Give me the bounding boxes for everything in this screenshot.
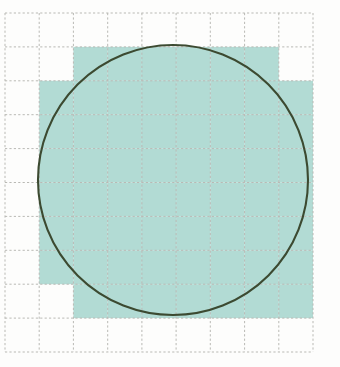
shaded-cell	[39, 81, 73, 115]
shaded-cell	[39, 250, 73, 284]
shaded-cell	[210, 115, 244, 149]
shaded-cell	[210, 250, 244, 284]
shaded-cell	[245, 81, 279, 115]
shaded-cell	[73, 149, 107, 183]
shaded-cell	[73, 284, 107, 318]
shaded-cell	[176, 81, 210, 115]
shaded-cell	[73, 183, 107, 217]
shaded-cell	[108, 115, 142, 149]
shaded-cell	[279, 115, 313, 149]
shaded-cell	[39, 183, 73, 217]
shaded-cell	[245, 250, 279, 284]
shaded-cell	[142, 183, 176, 217]
shaded-cell	[73, 81, 107, 115]
shaded-cell	[279, 284, 313, 318]
shaded-cell	[108, 149, 142, 183]
shaded-cell	[73, 250, 107, 284]
shaded-cell	[39, 115, 73, 149]
shaded-cell	[142, 115, 176, 149]
shaded-cell	[245, 115, 279, 149]
shaded-cell	[142, 149, 176, 183]
shaded-cell	[142, 47, 176, 81]
shaded-cell	[108, 250, 142, 284]
shaded-cell	[142, 81, 176, 115]
shaded-cell	[73, 115, 107, 149]
shaded-cell	[108, 47, 142, 81]
shaded-cell	[176, 47, 210, 81]
shaded-cell	[142, 216, 176, 250]
shaded-cell	[210, 183, 244, 217]
shaded-cell	[142, 250, 176, 284]
shaded-cell	[210, 216, 244, 250]
shaded-cell	[108, 81, 142, 115]
shaded-cell	[245, 183, 279, 217]
shaded-cell	[245, 284, 279, 318]
shaded-cell	[176, 183, 210, 217]
shaded-cell	[210, 284, 244, 318]
shaded-cell	[245, 149, 279, 183]
shaded-cell	[39, 149, 73, 183]
shaded-cell	[176, 149, 210, 183]
shaded-cell	[108, 183, 142, 217]
shaded-cell	[108, 216, 142, 250]
shaded-cell	[210, 149, 244, 183]
shaded-cell	[176, 115, 210, 149]
shaded-cell	[245, 216, 279, 250]
shaded-cell	[245, 47, 279, 81]
shaded-cell	[176, 250, 210, 284]
shaded-cell	[73, 216, 107, 250]
shaded-cell	[210, 81, 244, 115]
figure-container	[0, 0, 340, 367]
shaded-cell	[176, 216, 210, 250]
circle-grid-figure	[0, 0, 340, 367]
shaded-cell	[279, 81, 313, 115]
